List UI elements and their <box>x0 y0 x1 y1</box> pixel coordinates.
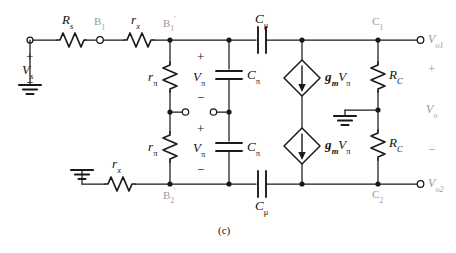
label-resistor-rpi-top: rπ <box>148 70 157 86</box>
label-resistor-rc-bottom: RC <box>389 136 403 152</box>
sign-vpi-bottom-minus: − <box>197 163 204 176</box>
label-output-vo1: Vo1 <box>428 33 443 48</box>
resistor-rx-bottom <box>105 177 135 191</box>
label-cap-cmu-top: Cμ <box>255 12 268 28</box>
sign-vpi-bottom-plus: + <box>197 122 204 135</box>
sign-vo-plus: + <box>428 62 435 75</box>
label-resistor-rc-top: RC <box>389 68 403 84</box>
label-voltage-vo: Vo <box>426 103 437 118</box>
resistor-rs <box>57 33 86 47</box>
resistor-rpi-bottom <box>163 132 177 162</box>
sign-vo-minus: − <box>428 143 435 156</box>
output-terminal-vo1 <box>417 37 424 44</box>
label-node-c2: C2 <box>372 189 383 203</box>
label-resistor-rpi-bottom: rπ <box>148 140 157 156</box>
circuit-schematic <box>0 0 456 253</box>
label-cap-cpi-bottom: Cπ <box>247 140 260 156</box>
label-resistor-rx-top: rx <box>131 13 140 29</box>
label-voltage-vpi-bottom: Vπ <box>193 141 205 157</box>
label-cap-cmu-bottom: Cμ <box>255 199 268 215</box>
sign-vpi-top-minus: − <box>197 91 204 104</box>
label-cap-cpi-top: Cπ <box>247 68 260 84</box>
node-b1-terminal <box>97 37 104 44</box>
output-terminal-vo2 <box>417 181 424 188</box>
label-node-c1: C1 <box>372 16 383 30</box>
resistor-rc-bottom <box>371 130 385 160</box>
label-resistor-rx-bottom: rx <box>112 157 121 173</box>
mid-tap-terminal-right <box>210 109 216 115</box>
mid-tap-terminal-left <box>182 109 188 115</box>
resistor-rx-top <box>124 33 154 47</box>
sign-vpi-top-plus: + <box>197 50 204 63</box>
figure-caption: (c) <box>218 224 230 236</box>
label-node-b1: B1 <box>94 16 105 30</box>
resistor-rc-top <box>371 62 385 92</box>
label-dependent-source-2: gmVπ <box>325 138 350 154</box>
label-voltage-vpi-top: Vπ <box>193 70 205 86</box>
sign-vs-minus: − <box>26 76 33 89</box>
label-node-b1-prime: B1' <box>163 16 175 32</box>
circuit-figure: Rs B1 rx B1' Cμ C1 Vo1 + Vs − rπ rπ + Vπ… <box>0 0 456 253</box>
label-resistor-rs: Rs <box>62 13 73 29</box>
label-dependent-source-1: gmVπ <box>325 70 350 86</box>
label-node-b2-prime: B2' <box>163 188 175 204</box>
resistor-rpi-top <box>163 62 177 92</box>
label-output-vo2: Vo2 <box>428 177 443 192</box>
